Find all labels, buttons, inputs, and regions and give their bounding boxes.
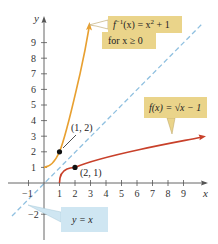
x-tick-label: 2 — [73, 188, 78, 199]
x-tick-label: 5 — [119, 188, 124, 199]
x-tick-label: 8 — [166, 188, 171, 199]
inverse-callout: f−1(x) = x2 + 1 for x ≥ 0 — [89, 16, 182, 49]
x-tick-label: 1 — [57, 188, 62, 199]
inverse-domain: for x ≥ 0 — [108, 35, 143, 46]
x-tick-label: 4 — [104, 188, 109, 199]
y-axis — [42, 16, 47, 240]
point-1-2-label: (1, 2) — [71, 122, 93, 134]
x-tick-label: 3 — [88, 188, 93, 199]
y-tick-label: 8 — [31, 53, 36, 64]
x-tick-label: 6 — [135, 188, 140, 199]
y-tick-label: 5 — [31, 99, 36, 110]
x-axis-label: x — [202, 187, 208, 199]
point-2-1 — [72, 165, 77, 170]
identity-callout: y = x — [28, 205, 108, 232]
x-tick-label: 9 — [181, 188, 186, 199]
y-tick-label: 2 — [31, 146, 36, 157]
y-tick-label: 6 — [31, 84, 36, 95]
function-formula: f(x) = √x − 1 — [149, 102, 201, 114]
y-axis-label: y — [33, 12, 39, 24]
y-tick-label: 4 — [31, 115, 36, 126]
point-1-2 — [57, 149, 62, 154]
x-axis — [8, 181, 208, 186]
y-tick-label: 3 — [31, 131, 36, 142]
y-tick-label: −2 — [28, 209, 39, 220]
identity-formula: y = x — [71, 214, 93, 225]
function-callout: f(x) = √x − 1 — [144, 97, 207, 134]
x-tick-label: −1 — [22, 188, 33, 199]
inverse-function-curve — [44, 22, 92, 167]
y-tick-label: 9 — [31, 37, 36, 48]
y-tick-label: 7 — [31, 68, 36, 79]
x-tick-label: 7 — [150, 188, 155, 199]
y-tick-label: 1 — [31, 162, 36, 173]
x-tick-labels: −1 1 2 3 4 5 6 7 8 9 — [22, 188, 186, 199]
function-inverse-chart: −1 1 2 3 4 5 6 7 8 9 x 9 8 7 6 5 4 3 2 1… — [0, 0, 218, 244]
chart-svg: −1 1 2 3 4 5 6 7 8 9 x 9 8 7 6 5 4 3 2 1… — [0, 0, 218, 244]
point-2-1-label: (2, 1) — [80, 167, 102, 179]
